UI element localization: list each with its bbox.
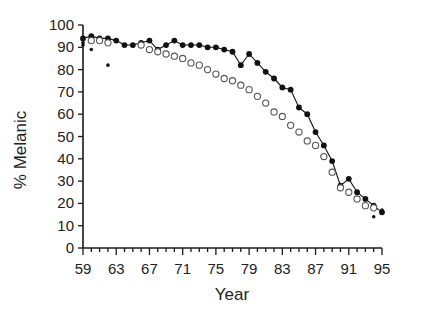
data-point-open (271, 109, 277, 115)
data-point-open (371, 205, 377, 211)
data-point-open (196, 62, 202, 68)
data-point-open (238, 82, 244, 88)
data-point-filled (213, 44, 219, 50)
data-point-open (88, 38, 94, 44)
y-tick-label: 80 (57, 61, 74, 78)
y-tick-label: 50 (57, 128, 74, 145)
data-point-open (362, 203, 368, 209)
data-point-filled (221, 47, 227, 53)
x-tick-label: 95 (374, 260, 391, 277)
data-point-filled (362, 196, 368, 202)
data-point-filled (255, 60, 261, 66)
y-tick-label: 90 (57, 38, 74, 55)
data-point-filled (122, 42, 128, 48)
data-point-open (288, 122, 294, 128)
y-tick-label: 10 (57, 217, 74, 234)
data-point-open (146, 46, 152, 52)
data-point-filled (246, 51, 252, 57)
data-point-filled (263, 69, 269, 75)
data-point-open (246, 87, 252, 93)
data-point-open (155, 49, 161, 55)
data-point-open (188, 60, 194, 66)
data-point-open (263, 100, 269, 106)
data-point-open (312, 142, 318, 148)
data-point-filled (80, 35, 86, 41)
data-point-filled (321, 143, 327, 149)
melanic-percentage-chart: 0102030405060708090100 59636771757983879… (0, 0, 422, 315)
data-point-small (380, 208, 384, 212)
data-point-small (372, 215, 376, 219)
data-point-filled (188, 42, 194, 48)
y-tick-label: 40 (57, 150, 74, 167)
data-point-filled (180, 42, 186, 48)
x-tick-label: 75 (208, 260, 225, 277)
data-point-open (304, 138, 310, 144)
data-point-open (105, 40, 111, 46)
y-tick-label: 70 (57, 83, 74, 100)
x-axis: 59636771757983879195 (75, 248, 391, 277)
data-point-filled (296, 105, 302, 111)
data-point-open (254, 93, 260, 99)
data-point-small (106, 63, 110, 67)
x-tick-label: 83 (274, 260, 291, 277)
y-tick-label: 20 (57, 194, 74, 211)
data-point-filled (113, 38, 119, 44)
series-line-filled-circles (83, 36, 382, 212)
data-point-filled (238, 62, 244, 68)
x-tick-label: 67 (141, 260, 158, 277)
data-point-open (221, 75, 227, 81)
x-axis-title: Year (215, 285, 250, 304)
data-point-open (346, 189, 352, 195)
data-point-filled (288, 87, 294, 93)
data-point-open (213, 71, 219, 77)
x-tick-label: 79 (241, 260, 258, 277)
x-tick-label: 63 (108, 260, 125, 277)
data-point-filled (230, 49, 236, 55)
data-point-open (163, 51, 169, 57)
data-point-small (90, 48, 94, 52)
data-point-filled (205, 44, 211, 50)
data-point-filled (279, 85, 285, 91)
data-point-filled (354, 189, 360, 195)
series-small-dots (81, 41, 384, 219)
data-point-filled (196, 42, 202, 48)
x-tick-label: 71 (174, 260, 191, 277)
y-tick-label: 100 (49, 16, 74, 33)
data-point-open (180, 55, 186, 61)
data-point-open (279, 113, 285, 119)
data-point-open (97, 38, 103, 44)
data-point-filled (171, 38, 177, 44)
data-point-open (296, 129, 302, 135)
data-point-small (81, 43, 85, 47)
data-point-open (321, 153, 327, 159)
y-tick-label: 0 (66, 239, 74, 256)
data-point-open (354, 196, 360, 202)
data-point-filled (329, 158, 335, 164)
data-point-filled (130, 42, 136, 48)
data-point-open (171, 53, 177, 59)
y-axis-title: % Melanic (11, 110, 30, 189)
data-point-open (329, 169, 335, 175)
data-point-open (138, 42, 144, 48)
y-tick-label: 30 (57, 172, 74, 189)
data-point-open (337, 185, 343, 191)
y-axis: 0102030405060708090100 (49, 16, 83, 256)
x-tick-label: 59 (75, 260, 92, 277)
x-tick-label: 91 (340, 260, 357, 277)
series-open-circles (88, 38, 377, 211)
y-tick-label: 60 (57, 105, 74, 122)
data-point-filled (304, 111, 310, 117)
data-point-filled (313, 129, 319, 135)
chart-canvas: 0102030405060708090100 59636771757983879… (0, 0, 422, 315)
x-tick-label: 87 (307, 260, 324, 277)
data-series-group (80, 33, 385, 218)
data-point-open (204, 67, 210, 73)
data-point-open (229, 78, 235, 84)
data-point-filled (163, 42, 169, 48)
data-point-filled (271, 76, 277, 82)
data-point-filled (147, 38, 153, 44)
data-point-filled (346, 176, 352, 182)
